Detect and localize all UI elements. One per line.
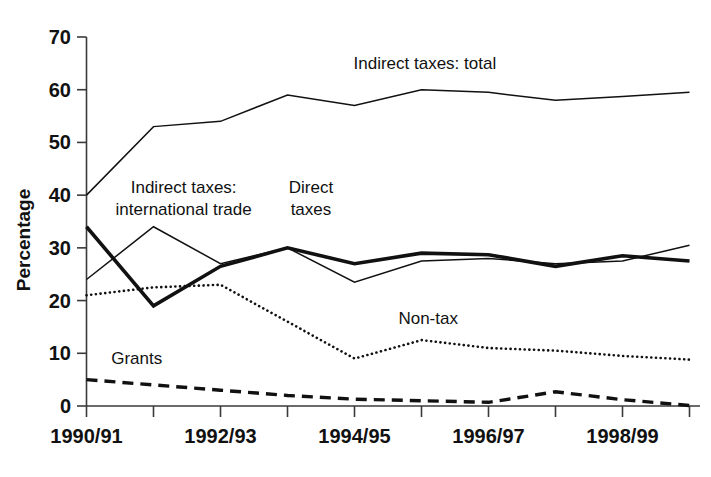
y-tick-label: 10 <box>49 342 71 364</box>
series-label-0: Indirect taxes: total <box>354 54 497 73</box>
series-label-4: Grants <box>111 349 162 368</box>
x-tick-label: 1990/91 <box>50 425 122 447</box>
x-tick-label: 1994/95 <box>318 425 390 447</box>
y-tick-label: 30 <box>49 237 71 259</box>
series-label-1-line1: Indirect taxes: <box>131 178 237 197</box>
x-tick-label: 1992/93 <box>184 425 256 447</box>
y-axis-title: Percentage <box>13 189 34 291</box>
series-label-3: Non-tax <box>398 309 458 328</box>
y-axis-title-text: Percentage <box>13 189 34 291</box>
y-tick-label: 60 <box>49 79 71 101</box>
chart-canvas: Percentage 010203040506070 1990/911992/9… <box>0 0 711 477</box>
y-tick-label: 20 <box>49 290 71 312</box>
y-tick-label: 50 <box>49 131 71 153</box>
series-label-1-line2: international trade <box>116 200 252 219</box>
series-label-2-line1: Direct <box>289 178 334 197</box>
x-tick-label: 1996/97 <box>452 425 524 447</box>
revenue-composition-line-chart: Percentage 010203040506070 1990/911992/9… <box>0 0 711 477</box>
y-tick-label: 40 <box>49 184 71 206</box>
y-tick-label: 0 <box>60 395 71 417</box>
y-tick-label: 70 <box>49 26 71 48</box>
x-tick-label: 1998/99 <box>586 425 658 447</box>
series-label-2-line2: taxes <box>291 200 332 219</box>
